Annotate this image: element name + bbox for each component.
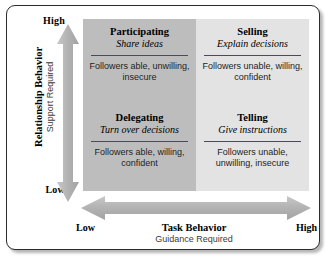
quadrant-participating[interactable]: Participating Share ideas Followers able… [83, 19, 196, 105]
y-axis-caption-main: Relationship Behavior [33, 12, 45, 182]
quadrant-selling[interactable]: Selling Explain decisions Followers unab… [196, 19, 309, 105]
quadrant-title: Delegating [89, 112, 190, 124]
quadrant-subtitle: Give instructions [202, 124, 303, 136]
quadrant-delegating[interactable]: Delegating Turn over decisions Followers… [83, 105, 196, 191]
quadrant-divider [204, 55, 301, 56]
quadrant-divider [204, 141, 301, 142]
quadrant-title: Participating [89, 26, 190, 38]
x-axis-low-label: Low [76, 222, 95, 233]
relationship-behavior-axis: High Low Relationship Behavior Support R… [15, 14, 79, 204]
x-axis-caption-main: Task Behavior [69, 222, 319, 234]
quadrant-subtitle: Share ideas [89, 38, 190, 50]
y-axis-caption: Relationship Behavior Support Required [33, 12, 55, 182]
quadrant-description: Followers unable, unwilling, insecure [202, 147, 303, 170]
quadrant-telling[interactable]: Telling Give instructions Followers unab… [196, 105, 309, 191]
x-axis-high-label: High [296, 222, 317, 233]
x-axis-caption-sub: Guidance Required [69, 234, 319, 244]
quadrant-description: Followers unable, willing, confident [202, 61, 303, 84]
diagram-frame: High Low Relationship Behavior Support R… [6, 5, 320, 250]
quadrant-divider [91, 141, 188, 142]
double-headed-horizontal-arrow-icon [81, 196, 311, 220]
quadrant-divider [91, 55, 188, 56]
quadrant-description: Followers able, willing, confident [89, 147, 190, 170]
double-headed-vertical-arrow-icon [57, 24, 79, 202]
leadership-style-matrix: Participating Share ideas Followers able… [83, 19, 309, 191]
quadrant-description: Followers able, unwilling, insecure [89, 61, 190, 84]
y-axis-caption-sub: Support Required [45, 12, 55, 182]
quadrant-title: Selling [202, 26, 303, 38]
quadrant-title: Telling [202, 112, 303, 124]
task-behavior-axis: Task Behavior Guidance Required Low High [69, 222, 319, 252]
x-axis-caption: Task Behavior Guidance Required [69, 222, 319, 244]
quadrant-subtitle: Turn over decisions [89, 124, 190, 136]
quadrant-subtitle: Explain decisions [202, 38, 303, 50]
